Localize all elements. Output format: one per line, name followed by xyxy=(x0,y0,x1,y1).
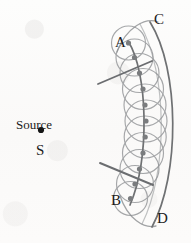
source-letter-label: S xyxy=(36,143,44,158)
wavelet-point xyxy=(126,40,131,45)
wavelet-point xyxy=(142,102,147,107)
wavelet-point xyxy=(137,70,142,75)
wavelet-point xyxy=(137,166,142,171)
upper-ray xyxy=(98,61,152,84)
source-label: Source xyxy=(16,118,52,131)
point-b-label: B xyxy=(111,193,121,208)
wavelet-point xyxy=(140,150,145,155)
wavelet-point xyxy=(132,55,137,60)
wavelet-point xyxy=(143,118,148,123)
wavelet-point xyxy=(128,196,133,201)
secondary-wavelets-group xyxy=(112,26,168,216)
point-c-label: C xyxy=(154,12,164,27)
wavelet-point xyxy=(140,86,145,91)
point-a-label: A xyxy=(115,35,126,50)
wavelet-point xyxy=(143,134,148,139)
point-d-label: D xyxy=(157,211,168,226)
wavelet-point xyxy=(132,181,137,186)
